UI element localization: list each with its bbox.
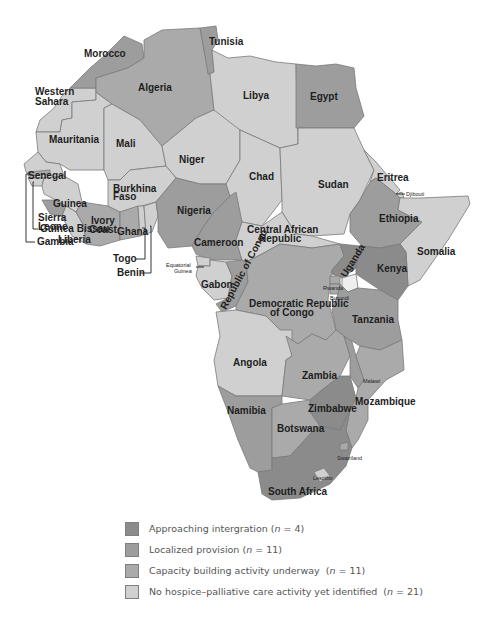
- label-togo: Togo: [113, 253, 137, 264]
- legend-swatch: [125, 543, 139, 557]
- legend-swatch: [125, 585, 139, 599]
- label-mali: Mali: [116, 138, 136, 149]
- label-burkina-faso-2: Faso: [113, 191, 136, 202]
- label-guinea-bissau: Guinea Bissau: [40, 223, 109, 234]
- label-senegal: Senegal: [28, 170, 67, 181]
- label-mauritania: Mauritania: [49, 134, 99, 145]
- legend-swatch: [125, 522, 139, 536]
- label-gambia: Gambia: [37, 236, 74, 247]
- country-somalia: [398, 196, 470, 286]
- legend-label: Approaching intergration (n = 4): [149, 523, 304, 534]
- label-swaziland: Swaziland: [337, 455, 362, 461]
- map-legend: Approaching intergration (n = 4) Localiz…: [125, 518, 423, 602]
- label-rwanda: Rwanda: [323, 285, 344, 291]
- africa-map: Morocco Tunisia Algeria Western Sahara L…: [0, 0, 495, 510]
- legend-item-capacity: Capacity building activity underway (n =…: [125, 560, 423, 581]
- legend-label: No hospice–palliative care activity yet …: [149, 586, 423, 597]
- label-egypt: Egypt: [310, 91, 338, 102]
- label-zambia: Zambia: [302, 370, 337, 381]
- label-angola: Angola: [233, 357, 267, 368]
- label-equatorial-guinea-2: Guinea: [174, 268, 193, 274]
- label-namibia: Namibia: [227, 405, 266, 416]
- label-niger: Niger: [179, 154, 205, 165]
- label-south-africa: South Africa: [268, 486, 328, 497]
- legend-swatch: [125, 564, 139, 578]
- legend-item-none: No hospice–palliative care activity yet …: [125, 581, 423, 602]
- label-eritrea: Eritrea: [377, 172, 409, 183]
- label-lesotho: Lesotho: [313, 475, 333, 481]
- label-libya: Libya: [243, 90, 270, 101]
- label-zimbabwe: Zimbabwe: [308, 403, 357, 414]
- label-cameroon: Cameroon: [194, 237, 243, 248]
- label-guinea: Guinea: [53, 198, 87, 209]
- label-djibouti: Djibouti: [406, 191, 424, 197]
- legend-label: Capacity building activity underway (n =…: [149, 565, 365, 576]
- legend-label: Localized provision (n = 11): [149, 544, 282, 555]
- legend-item-approaching: Approaching intergration (n = 4): [125, 518, 423, 539]
- label-tanzania: Tanzania: [352, 314, 394, 325]
- label-benin: Benin: [117, 267, 145, 278]
- label-malawi: Malawi: [363, 378, 380, 384]
- legend-item-localized: Localized provision (n = 11): [125, 539, 423, 560]
- label-nigeria: Nigeria: [177, 205, 211, 216]
- country-equatorial-guinea: [196, 256, 210, 266]
- country-rwanda: [330, 276, 340, 284]
- label-kenya: Kenya: [377, 263, 407, 274]
- label-sudan: Sudan: [318, 179, 349, 190]
- label-mozambique: Mozambique: [355, 396, 416, 407]
- label-ethiopia: Ethiopia: [379, 213, 419, 224]
- label-morocco: Morocco: [84, 48, 126, 59]
- label-drc-2: of Congo: [270, 307, 314, 318]
- label-botswana: Botswana: [277, 423, 325, 434]
- label-western-sahara-2: Sahara: [35, 96, 69, 107]
- label-chad: Chad: [249, 171, 274, 182]
- label-ghana: Ghana: [117, 226, 149, 237]
- label-somalia: Somalia: [417, 246, 456, 257]
- label-algeria: Algeria: [138, 82, 172, 93]
- label-tunisia: Tunisia: [209, 36, 244, 47]
